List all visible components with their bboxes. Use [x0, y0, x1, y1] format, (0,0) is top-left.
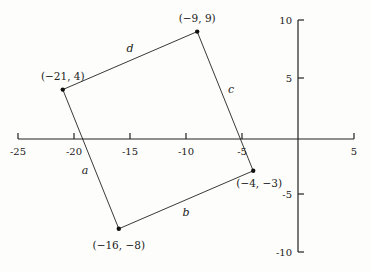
- side-label-b: b: [182, 206, 189, 219]
- y-tick-label: 10: [279, 15, 292, 26]
- side-label-d: d: [126, 42, 133, 55]
- vertex-label: (−9, 9): [179, 12, 216, 24]
- square-polygon: [61, 29, 256, 231]
- y-tick-label: -5: [282, 189, 292, 200]
- side-label-a: a: [82, 164, 89, 177]
- vertex-point: [195, 29, 199, 33]
- x-tick-label: -25: [10, 146, 26, 157]
- y-tick-label: -10: [276, 247, 292, 258]
- square-outline: [63, 32, 253, 229]
- x-tick-label: 5: [351, 146, 357, 157]
- side-label-c: c: [228, 83, 234, 96]
- vertex-label: (−16, −8): [93, 239, 146, 251]
- vertex-point: [61, 87, 65, 91]
- vertex-label: (−4, −3): [236, 177, 282, 189]
- y-tick-label: 5: [286, 73, 292, 84]
- axes: -25-20-15-10-55105-5-10: [10, 15, 357, 258]
- x-tick-label: -15: [122, 146, 138, 157]
- vertex-point: [117, 227, 121, 231]
- x-tick-label: -20: [66, 146, 82, 157]
- vertex-label: (−21, 4): [41, 70, 85, 82]
- vertex-point: [251, 169, 255, 173]
- x-tick-label: -10: [178, 146, 194, 157]
- coordinate-plot: -25-20-15-10-55105-5-10 (−21, 4)(−9, 9)(…: [0, 0, 371, 272]
